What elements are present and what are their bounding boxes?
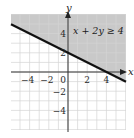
y-tick-label: 2 — [60, 48, 66, 58]
x-tick-label: 4 — [104, 75, 110, 85]
y-axis-label: y — [65, 2, 72, 13]
x-tick-label: 0 — [60, 75, 66, 85]
y-tick-label: −4 — [53, 106, 67, 116]
x-axis-label: x — [128, 66, 134, 77]
y-tick-label: −2 — [53, 87, 66, 97]
x-tick-label: 2 — [84, 75, 90, 85]
inequality-graph: −4−202442−2−4 x y x + 2y ≥ 4 — [0, 0, 134, 138]
inequality-label: x + 2y ≥ 4 — [73, 25, 124, 36]
y-tick-label: 4 — [60, 29, 66, 39]
x-tick-label: −4 — [21, 75, 35, 85]
x-tick-label: −2 — [40, 75, 53, 85]
